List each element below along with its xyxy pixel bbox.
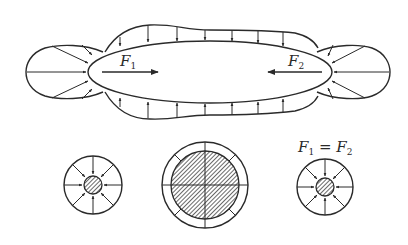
right-pressure-lobe bbox=[317, 45, 390, 99]
pressure-diagram: F1 F2 F1 = F2 bbox=[0, 0, 408, 245]
cross-section-left bbox=[64, 156, 122, 214]
body-group: F1 F2 bbox=[26, 25, 390, 119]
label-f1: F1 bbox=[119, 52, 136, 71]
cross-section-right bbox=[297, 159, 353, 215]
label-f2: F2 bbox=[287, 52, 304, 71]
label-equation: F1 = F2 bbox=[297, 138, 352, 157]
left-pressure-lobe bbox=[26, 45, 103, 99]
cross-section-center bbox=[162, 142, 248, 228]
